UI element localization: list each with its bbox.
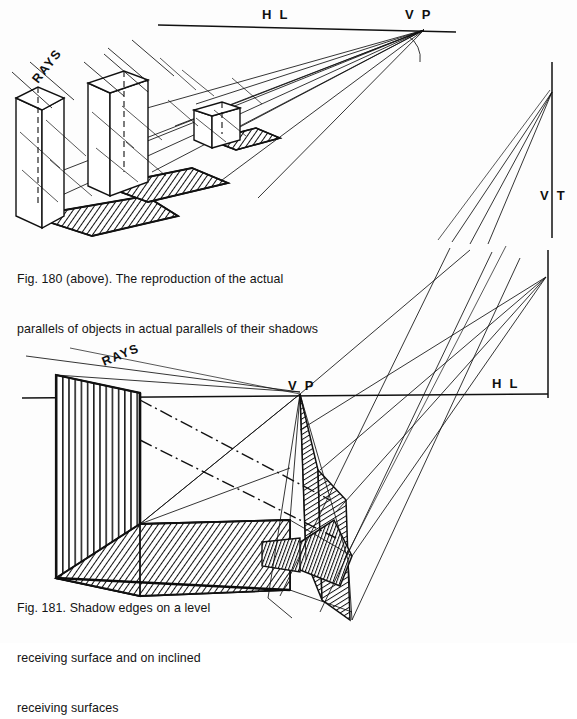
caption-180-line-1: Fig. 180 (above). The reproduction of th…: [17, 271, 318, 288]
prism-mid-left-face: [88, 83, 110, 196]
caption-181-line-3: receiving surfaces: [17, 700, 210, 717]
caption-181-line-2: receiving surface and on inclined: [17, 650, 210, 667]
label-horizon-180: H L: [262, 7, 290, 22]
caption-181-line-1: Fig. 181. Shadow edges on a level: [17, 600, 210, 617]
caption-figure-180: Fig. 180 (above). The reproduction of th…: [17, 238, 318, 371]
label-vp-180: V P: [405, 7, 433, 22]
label-horizon-181: H L: [492, 376, 520, 391]
label-vp-181: V P: [288, 378, 316, 393]
label-vt-180: V T: [540, 188, 567, 203]
caption-figure-181: Fig. 181. Shadow edges on a level receiv…: [17, 567, 210, 719]
caption-180-line-2: parallels of objects in actual parallels…: [17, 321, 318, 338]
prism-mid-front-face: [110, 80, 148, 196]
